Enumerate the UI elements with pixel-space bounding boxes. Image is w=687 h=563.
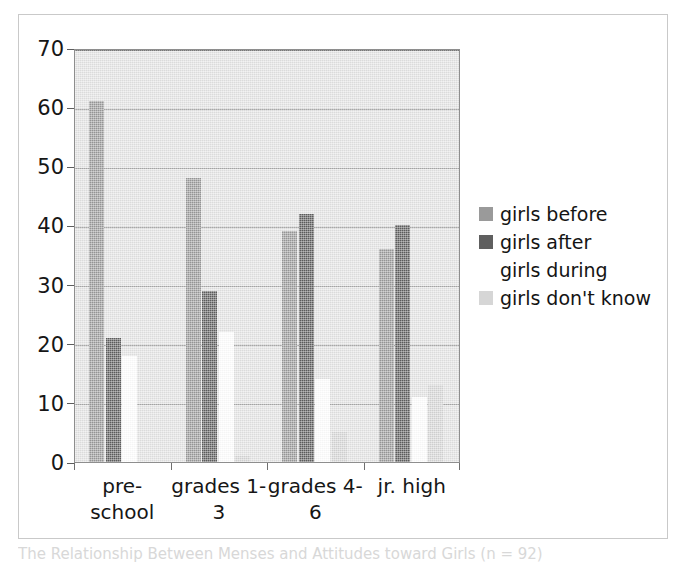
x-axis-label-line: 6 bbox=[255, 499, 376, 525]
x-axis-tick bbox=[267, 463, 268, 470]
x-axis-tick bbox=[459, 463, 460, 470]
legend-item-after[interactable]: girls after bbox=[479, 229, 669, 255]
bar-dontknow-1 bbox=[235, 456, 250, 462]
y-axis-tick bbox=[67, 108, 74, 109]
plot-area bbox=[74, 49, 460, 463]
legend-item-before[interactable]: girls before bbox=[479, 201, 669, 227]
gridline bbox=[75, 50, 459, 51]
x-axis-label-line: jr. high bbox=[352, 473, 473, 499]
figure-caption: The Relationship Between Menses and Atti… bbox=[18, 545, 668, 563]
bar-before-1 bbox=[186, 178, 201, 462]
x-axis-tick bbox=[171, 463, 172, 470]
bar-after-3 bbox=[395, 225, 410, 462]
legend-label: girls before bbox=[500, 205, 608, 224]
y-axis-tick bbox=[67, 226, 74, 227]
legend-swatch-icon bbox=[479, 207, 493, 221]
x-axis-labels: pre-schoolgrades 1-3grades 4-6jr. high bbox=[74, 473, 460, 537]
bar-during-0 bbox=[122, 356, 137, 462]
bar-before-2 bbox=[282, 231, 297, 462]
legend-swatch-icon bbox=[479, 291, 493, 305]
bar-after-2 bbox=[299, 214, 314, 462]
legend-label: girls during bbox=[500, 261, 608, 280]
legend-item-during[interactable]: girls during bbox=[479, 257, 669, 283]
bar-after-0 bbox=[106, 338, 121, 462]
bar-after-1 bbox=[202, 291, 217, 463]
chart-legend: girls beforegirls aftergirls duringgirls… bbox=[479, 201, 669, 313]
y-axis-tick bbox=[67, 463, 74, 464]
legend-label: girls don't know bbox=[500, 289, 651, 308]
x-axis-ticks bbox=[74, 463, 460, 470]
figure-frame: 010203040506070 pre-schoolgrades 1-3grad… bbox=[18, 14, 668, 539]
y-axis-tick bbox=[67, 285, 74, 286]
y-axis-tick bbox=[67, 167, 74, 168]
x-axis-tick bbox=[364, 463, 365, 470]
bar-dontknow-2 bbox=[332, 432, 347, 462]
legend-label: girls after bbox=[500, 233, 591, 252]
legend-swatch-icon bbox=[479, 263, 493, 277]
bar-dontknow-3 bbox=[428, 385, 443, 462]
gridline bbox=[75, 168, 459, 169]
bar-during-2 bbox=[315, 379, 330, 462]
bar-during-1 bbox=[219, 332, 234, 462]
legend-swatch-icon bbox=[479, 235, 493, 249]
bar-during-3 bbox=[412, 397, 427, 462]
y-axis-tick bbox=[67, 344, 74, 345]
bar-chart: 010203040506070 pre-schoolgrades 1-3grad… bbox=[19, 15, 669, 540]
bar-before-0 bbox=[89, 101, 104, 462]
y-axis-tick bbox=[67, 49, 74, 50]
y-axis-ticks bbox=[19, 49, 79, 463]
x-axis-label-3: jr. high bbox=[352, 473, 473, 499]
bar-before-3 bbox=[379, 249, 394, 462]
legend-item-dontknow[interactable]: girls don't know bbox=[479, 285, 669, 311]
y-axis-tick bbox=[67, 403, 74, 404]
gridline bbox=[75, 109, 459, 110]
x-axis-tick bbox=[74, 463, 75, 470]
